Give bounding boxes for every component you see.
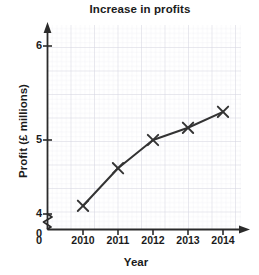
line-chart: Increase in profits Profit (£ millions) … — [0, 0, 259, 275]
chart-canvas — [0, 0, 259, 275]
plot-grid — [48, 25, 241, 229]
